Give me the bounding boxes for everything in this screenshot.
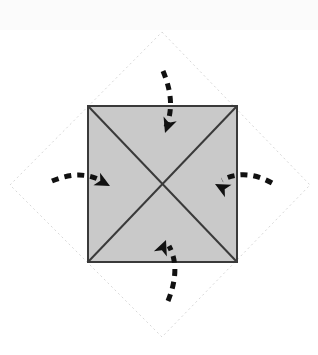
diagram-canvas (0, 0, 318, 355)
inner-square-group (88, 106, 237, 262)
fold-diagram-figure: Square folded inward along diagonals (0, 0, 318, 355)
